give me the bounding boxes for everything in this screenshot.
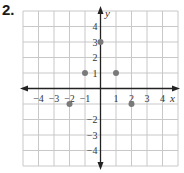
plotted-point <box>113 70 119 76</box>
x-tick-label: 4 <box>160 93 165 104</box>
x-tick-label: −4 <box>33 93 44 104</box>
x-tick-label: 1 <box>114 93 119 104</box>
plotted-point <box>129 101 135 107</box>
x-tick-label: 3 <box>145 93 150 104</box>
y-axis-up-arrow-icon <box>98 6 104 14</box>
y-tick-label: −3 <box>87 130 98 141</box>
y-tick-label: −4 <box>87 145 98 156</box>
x-tick-label: −3 <box>49 93 60 104</box>
plotted-point <box>82 70 88 76</box>
y-tick-label: 2 <box>93 52 98 63</box>
y-axis-label: y <box>104 7 110 19</box>
x-axis-label: x <box>169 92 175 104</box>
y-tick-label: 1 <box>93 68 98 79</box>
axes <box>20 6 180 170</box>
y-tick-label: 4 <box>93 21 98 32</box>
x-axis-right-arrow-icon <box>172 86 180 92</box>
plotted-point <box>98 39 104 45</box>
y-tick-label: −2 <box>87 114 98 125</box>
x-tick-label: −1 <box>80 93 91 104</box>
x-axis-left-arrow-icon <box>20 86 28 92</box>
plotted-point <box>67 101 73 107</box>
y-tick-label: 3 <box>93 37 98 48</box>
coordinate-plane: −4−3−2−112344321−2−3−4 x y <box>0 0 184 173</box>
